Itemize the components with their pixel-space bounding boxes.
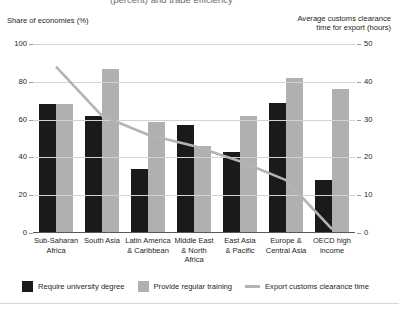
tick-mark-right	[357, 195, 361, 196]
plot-area	[33, 44, 355, 233]
tick-mark-right	[357, 44, 361, 45]
bar-light	[102, 69, 119, 233]
grid-line	[33, 120, 355, 121]
bar-light	[286, 78, 303, 233]
grid-line	[33, 157, 355, 158]
y-axis-tick-right: 20	[364, 152, 399, 161]
right-axis-caption-line1: Average customs clearance	[297, 14, 391, 23]
bar-dark	[131, 169, 148, 233]
x-axis-label: Europe &Central Asia	[263, 236, 309, 265]
footer-divider	[0, 303, 399, 304]
legend-item[interactable]: Export customs clearance time	[245, 282, 369, 291]
y-axis-tick-left: 40	[0, 152, 27, 161]
left-axis-caption: Share of economies (%)	[7, 16, 88, 25]
tick-mark-left	[29, 195, 33, 196]
tick-mark-left	[29, 233, 33, 234]
tick-mark-right	[357, 157, 361, 158]
tick-mark-right	[357, 233, 361, 234]
bar-dark	[85, 116, 102, 233]
bar-group	[171, 44, 217, 233]
bar-dark	[315, 180, 332, 233]
bar-light	[148, 122, 165, 234]
bar-light	[56, 104, 73, 233]
y-axis-tick-left: 20	[0, 190, 27, 199]
x-axis-labels: Sub-SaharanAfricaSouth AsiaLatin America…	[33, 236, 355, 265]
x-axis-label: Sub-SaharanAfrica	[33, 236, 79, 265]
right-axis-caption-line2: time for export (hours)	[297, 23, 391, 32]
tick-mark-right	[357, 120, 361, 121]
legend-swatch-line	[245, 285, 260, 287]
grid-line	[33, 82, 355, 83]
legend-label: Export customs clearance time	[265, 282, 369, 291]
y-axis-tick-left: 80	[0, 77, 27, 86]
bar-group	[309, 44, 355, 233]
bar-light	[332, 89, 349, 233]
x-axis-label: East Asia& Pacific	[217, 236, 263, 265]
y-axis-tick-right: 30	[364, 115, 399, 124]
x-axis-label: OECD highincome	[309, 236, 355, 265]
bar-group	[79, 44, 125, 233]
chart-legend: Require university degreeProvide regular…	[22, 281, 382, 292]
legend-swatch-light	[138, 281, 149, 292]
y-axis-tick-left: 100	[0, 39, 27, 48]
bar-dark	[223, 152, 240, 233]
grid-line	[33, 195, 355, 196]
bar-dark	[177, 125, 194, 233]
legend-item[interactable]: Provide regular training	[138, 281, 233, 292]
tick-mark-left	[29, 44, 33, 45]
bar-dark	[39, 104, 56, 233]
bar-group	[125, 44, 171, 233]
y-axis-tick-right: 0	[364, 228, 399, 237]
chart-figure: (percent) and trade efficiency Share of …	[0, 0, 399, 309]
bar-groups	[33, 44, 355, 233]
y-axis-tick-left: 0	[0, 228, 27, 237]
legend-label: Require university degree	[38, 282, 125, 291]
bar-group	[217, 44, 263, 233]
legend-swatch-dark	[22, 281, 33, 292]
legend-label: Provide regular training	[154, 282, 233, 291]
x-axis-label: Middle East& North Africa	[171, 236, 217, 265]
bar-group	[263, 44, 309, 233]
bar-light	[240, 116, 257, 233]
tick-mark-left	[29, 120, 33, 121]
bar-group	[33, 44, 79, 233]
y-axis-tick-right: 50	[364, 39, 399, 48]
x-axis-label: Latin America& Caribbean	[125, 236, 171, 265]
figure-title-strip: (percent) and trade efficiency	[0, 0, 399, 11]
tick-mark-left	[29, 82, 33, 83]
tick-mark-right	[357, 82, 361, 83]
y-axis-tick-right: 40	[364, 77, 399, 86]
tick-mark-left	[29, 157, 33, 158]
figure-title: (percent) and trade efficiency	[110, 0, 233, 5]
grid-line	[33, 44, 355, 45]
legend-item[interactable]: Require university degree	[22, 281, 125, 292]
right-axis-caption: Average customs clearance time for expor…	[297, 14, 391, 33]
y-axis-tick-left: 60	[0, 115, 27, 124]
bar-dark	[269, 103, 286, 233]
x-axis-label: South Asia	[79, 236, 125, 265]
y-axis-tick-right: 10	[364, 190, 399, 199]
x-axis-line	[33, 232, 355, 233]
bar-light	[194, 146, 211, 233]
